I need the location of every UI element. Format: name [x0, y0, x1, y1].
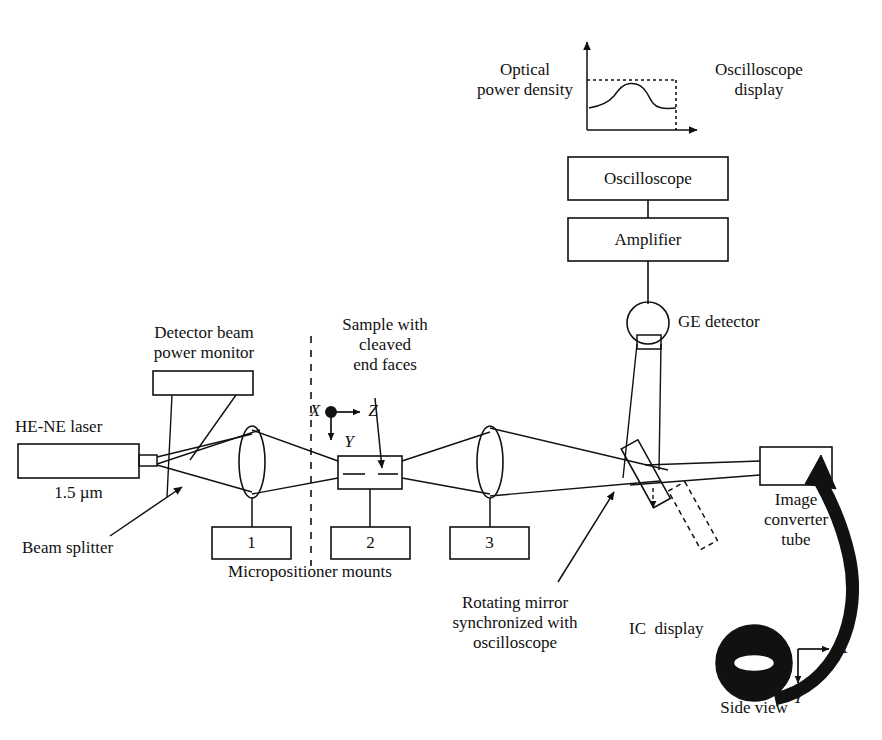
diagram-canvas: Optical power density Oscilloscope displ… — [0, 0, 882, 740]
beam-splitter-line-a — [157, 430, 260, 464]
label-micropositioner-mounts: Micropositioner mounts — [170, 562, 450, 582]
monitor-beam-left — [167, 395, 172, 497]
lens-1-shape — [239, 426, 265, 498]
ge-detector-shape — [627, 302, 669, 349]
label-axis-y-main: Y — [340, 432, 358, 452]
label-mount-2: 2 — [331, 527, 410, 559]
rotating-mirror-shape — [621, 440, 670, 508]
label-amplifier-box: Amplifier — [568, 218, 728, 261]
beam-lens2-mirror-lower — [490, 481, 660, 496]
beam-laser-lens1-lower — [157, 465, 252, 492]
label-rotating-mirror: Rotating mirror synchronized with oscill… — [400, 593, 630, 653]
sample-box-shape — [338, 456, 402, 489]
detector-cone-right — [659, 344, 661, 470]
label-oscilloscope-display: Oscilloscope display — [694, 60, 824, 100]
label-beam-splitter: Beam splitter — [22, 538, 182, 558]
he-ne-laser-shape — [18, 444, 157, 478]
label-axis-x-main: X — [306, 401, 324, 421]
beam-lens1-sample-lower — [252, 478, 338, 494]
lens-2-shape — [477, 426, 503, 498]
beam-lens2-mirror-upper — [490, 428, 668, 470]
label-ic-display: IC display — [629, 619, 759, 639]
label-mount-3: 3 — [450, 527, 529, 559]
label-detector-beam-power-monitor: Detector beam power monitor — [133, 323, 275, 363]
label-sample-with-cleaved-end-faces: Sample with cleaved end faces — [330, 315, 440, 375]
label-image-converter-tube: Image converter tube — [738, 490, 854, 550]
beam-mirror-imagetube-lower — [630, 475, 760, 485]
label-mount-1: 1 — [212, 527, 291, 559]
label-optical-power-density: Optical power density — [470, 60, 580, 100]
oscilloscope-waveform-plot — [587, 42, 697, 130]
label-he-ne-laser: HE-NE laser — [15, 417, 165, 437]
label-wavelength: 1.5 µm — [18, 483, 139, 503]
label-axis-x-side: X — [834, 638, 852, 658]
label-oscilloscope-box: Oscilloscope — [568, 157, 728, 200]
beam-sample-lens2-lower — [402, 478, 490, 494]
label-ge-detector: GE detector — [678, 312, 818, 332]
leader-rotating-mirror — [558, 492, 614, 582]
rotating-mirror-ghost-shape — [668, 482, 717, 550]
beam-mirror-imagetube-upper — [645, 461, 760, 465]
label-axis-z-main: Z — [364, 401, 382, 421]
label-axis-y-side: Y — [789, 688, 807, 708]
detector-cone-left — [623, 344, 637, 478]
power-monitor-box-outline — [153, 371, 253, 395]
